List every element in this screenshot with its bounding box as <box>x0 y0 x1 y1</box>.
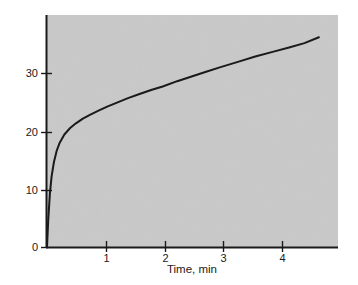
xtick-label-4: 4 <box>270 253 295 264</box>
ytick-label-10: 10 <box>8 185 38 196</box>
ytick-label-0: 0 <box>8 242 38 253</box>
ytick-label-30: 30 <box>8 68 38 79</box>
xtick-label-1: 1 <box>94 253 119 264</box>
ytick-label-20: 20 <box>8 127 38 138</box>
x-axis-title: Time, min <box>46 264 338 276</box>
chart-figure: 0 10 20 30 1 2 3 4 Time, min Nitrophenol… <box>0 0 358 285</box>
plot-canvas <box>0 0 358 285</box>
plot-area <box>46 15 338 247</box>
